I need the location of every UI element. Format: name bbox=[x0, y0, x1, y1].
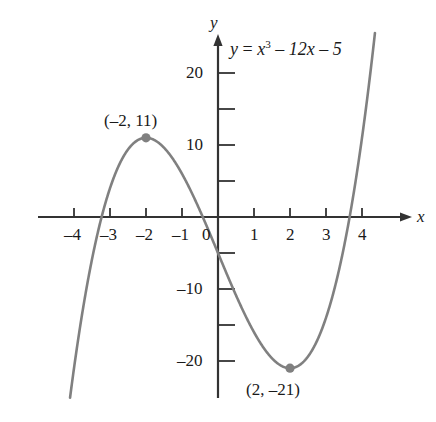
equation-term3: – 5 bbox=[319, 39, 342, 59]
x-tick-label-neg2: –2 bbox=[136, 226, 153, 243]
local-maximum-point-label: (–2, 11) bbox=[104, 112, 157, 129]
x-tick-label-neg4: –4 bbox=[64, 226, 81, 243]
y-tick-label-neg20: –20 bbox=[177, 352, 203, 369]
x-tick-label-0: 0 bbox=[202, 226, 211, 243]
cubic-curve-path bbox=[70, 33, 375, 398]
y-axis-arrowhead bbox=[213, 34, 222, 46]
equation-term1-base: x bbox=[257, 39, 265, 59]
x-tick-label-neg3: –3 bbox=[100, 226, 117, 243]
equation-term2: – 12x bbox=[275, 39, 315, 59]
y-tick-label-20: 20 bbox=[186, 64, 203, 81]
x-tick-label-neg1: –1 bbox=[172, 226, 189, 243]
x-axis-arrowhead bbox=[400, 212, 412, 221]
x-tick-label-1: 1 bbox=[250, 226, 259, 243]
local-minimum-point-marker bbox=[285, 364, 294, 373]
x-axis-label: x bbox=[417, 208, 425, 225]
equation-lhs: y bbox=[230, 39, 238, 59]
cubic-function-graph-figure: y x y = x3 – 12x – 5 –4 –3 –2 –1 0 1 2 3… bbox=[0, 0, 436, 422]
x-tick-label-2: 2 bbox=[286, 226, 295, 243]
equation-term1-exponent: 3 bbox=[265, 38, 271, 50]
local-minimum-point-label: (2, –21) bbox=[246, 381, 300, 398]
y-tick-label-neg10: –10 bbox=[177, 280, 203, 297]
y-axis-label: y bbox=[210, 14, 218, 31]
x-tick-label-4: 4 bbox=[358, 226, 367, 243]
equation-annotation: y = x3 – 12x – 5 bbox=[230, 40, 342, 58]
graph-canvas bbox=[0, 0, 436, 422]
local-maximum-point-marker bbox=[141, 133, 150, 142]
equation-equals: = bbox=[243, 39, 253, 59]
x-tick-label-3: 3 bbox=[322, 226, 331, 243]
y-tick-label-10: 10 bbox=[186, 136, 203, 153]
